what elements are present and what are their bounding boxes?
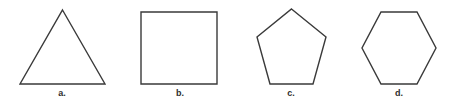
triangle-shape — [20, 10, 105, 84]
pentagon-label: c. — [287, 89, 295, 98]
triangle-label: a. — [58, 89, 66, 98]
square-label: b. — [176, 89, 184, 98]
hexagon-shape — [362, 12, 436, 84]
polygon-figure: a. b. c. d. — [0, 0, 454, 102]
hexagon-label: d. — [395, 89, 403, 98]
pentagon-shape — [257, 9, 326, 84]
square-shape — [141, 12, 217, 84]
shapes-canvas — [0, 0, 454, 102]
